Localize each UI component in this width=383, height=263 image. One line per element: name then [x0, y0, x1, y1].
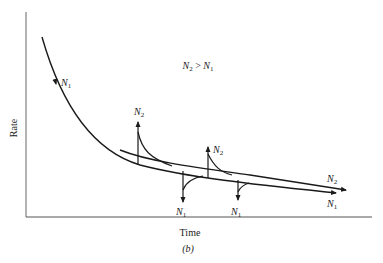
y-axis-label: Rate — [8, 118, 19, 137]
condition-label: N2 > N1 — [182, 60, 214, 73]
n1-start-label: N1 — [60, 77, 72, 90]
decay-to-n2-1 — [138, 132, 172, 166]
recovery-to-n1-2 — [238, 183, 249, 192]
step-label-n2-2: N2 — [212, 144, 224, 157]
n1-direction-arrow — [55, 80, 56, 84]
n2-curve — [120, 150, 346, 190]
n2-end-label: N2 — [326, 173, 338, 186]
rate-vs-time-diagram: Rate Time (b) N2 > N1 N1 N2 N1 N2 N1 N2 … — [0, 0, 383, 263]
recovery-to-n1-1 — [183, 176, 203, 190]
n1-end-label: N1 — [326, 198, 338, 211]
x-axis-label: Time — [180, 227, 201, 238]
step-label-n2-1: N2 — [133, 106, 145, 119]
figure-caption: (b) — [182, 243, 194, 255]
